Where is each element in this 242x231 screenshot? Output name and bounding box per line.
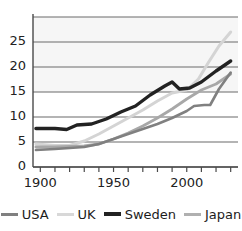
legend-line-swatch-icon <box>184 213 201 216</box>
legend-item-sweden[interactable]: Sweden <box>104 208 176 221</box>
legend-label: UK <box>78 208 96 221</box>
legend-line-swatch-icon <box>1 213 18 216</box>
legend-item-japan[interactable]: Japan <box>184 208 241 221</box>
legend-item-usa[interactable]: USA <box>1 208 49 221</box>
x-tick-label: 1950 <box>92 175 136 190</box>
x-minor-ticks <box>40 167 230 172</box>
line-chart: 0510152025 190019502000 USAUKSwedenJapan <box>0 0 242 231</box>
legend-line-swatch-icon <box>104 212 121 216</box>
chart-plot-area <box>0 0 242 231</box>
x-tick-label: 1900 <box>18 175 62 190</box>
legend-label: Japan <box>205 208 241 221</box>
chart-legend: USAUKSwedenJapan <box>0 203 242 225</box>
y-tick-label: 25 <box>0 33 26 48</box>
legend-label: Sweden <box>125 208 176 221</box>
legend-label: USA <box>22 208 49 221</box>
legend-line-swatch-icon <box>57 213 74 216</box>
y-tick-label: 10 <box>0 108 26 123</box>
y-tick-label: 15 <box>0 83 26 98</box>
y-tick-label: 5 <box>0 133 26 148</box>
legend-item-uk[interactable]: UK <box>57 208 96 221</box>
x-tick-label: 2000 <box>165 175 209 190</box>
y-tick-label: 20 <box>0 58 26 73</box>
y-tick-label: 0 <box>0 158 26 173</box>
grid-bands <box>33 17 238 92</box>
